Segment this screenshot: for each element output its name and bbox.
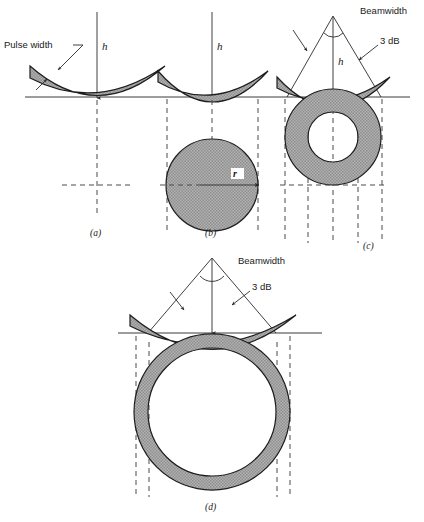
panel-d: Beamwidth 3 dB (d)	[118, 255, 322, 513]
panel-a: h Pulse width (a)	[4, 12, 165, 239]
panel-b: h r (b)	[158, 12, 268, 239]
panel-a-dashed-guides	[62, 100, 133, 215]
panel-c: h Beamwidth 3 dB (c)	[277, 5, 407, 252]
panel-b-altitude-line: h	[212, 12, 223, 98]
panel-c-altitude-line: h	[333, 17, 344, 98]
panel-d-caption: (d)	[205, 502, 216, 513]
panel-d-beamwidth-label: Beamwidth	[238, 255, 285, 266]
panel-d-annotations: Beamwidth 3 dB	[170, 255, 285, 310]
figure-canvas: h Pulse width (a) h	[0, 0, 424, 522]
panel-b-caption: (b)	[205, 228, 216, 239]
panel-c-altitude-label: h	[338, 55, 344, 67]
panel-d-footprint-annulus	[134, 334, 290, 490]
panel-c-footprint-annulus	[280, 89, 388, 185]
panel-a-altitude-line: h	[97, 12, 108, 98]
panel-c-caption: (c)	[363, 241, 374, 252]
panel-b-footprint-circle: r	[160, 139, 259, 231]
panel-a-caption: (a)	[90, 228, 101, 239]
panel-a-pulse-width-callout: Pulse width	[4, 39, 83, 90]
panel-c-beam-cone	[287, 16, 381, 97]
panel-c-3db-label: 3 dB	[380, 35, 400, 46]
panel-d-3db-label: 3 dB	[252, 281, 272, 292]
pulse-width-label: Pulse width	[4, 39, 53, 50]
panel-a-pulse-shell	[30, 66, 165, 96]
panel-b-altitude-label: h	[217, 40, 223, 52]
panel-a-altitude-label: h	[102, 40, 108, 52]
radar-footprint-figure: h Pulse width (a) h	[0, 0, 424, 522]
panel-c-annotations: Beamwidth 3 dB	[293, 5, 407, 60]
panel-c-beamwidth-label: Beamwidth	[360, 5, 407, 16]
panel-b-radius-label: r	[233, 168, 237, 179]
